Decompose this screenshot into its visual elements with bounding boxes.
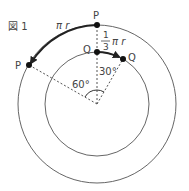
point-q-right	[120, 56, 126, 62]
label-fraction-den: 3	[103, 42, 109, 52]
inner-arc-arrow	[97, 52, 119, 57]
point-p-top	[94, 22, 100, 28]
label-inner-arc-rest: π r	[112, 36, 126, 47]
label-fraction-num: 1	[103, 30, 109, 40]
label-outer-arc: π r	[56, 20, 70, 31]
label-p-left: P	[15, 60, 21, 71]
angle-arc-30	[97, 90, 104, 92]
label-angle-60: 60°	[72, 79, 90, 90]
label-q-top: Q	[83, 44, 91, 55]
label-q-right: Q	[128, 52, 136, 63]
figure-title: 図 1	[8, 21, 28, 32]
label-angle-30: 30°	[99, 66, 117, 77]
label-p-top: P	[93, 10, 99, 21]
concentric-circles-diagram: 図 1 P P Q Q π r 1 3 π r 60° 30°	[0, 0, 189, 191]
point-p-left	[26, 62, 32, 68]
angle-arc-60	[85, 90, 97, 97]
point-q-top	[94, 49, 100, 55]
